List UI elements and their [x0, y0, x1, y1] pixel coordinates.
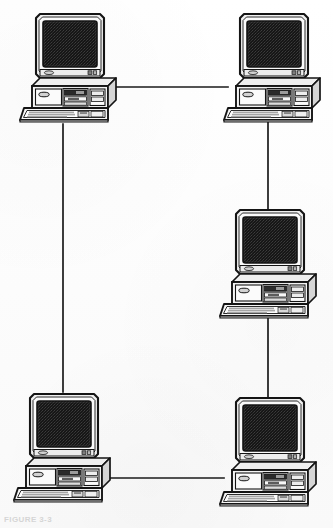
network-topology-diagram: [0, 0, 333, 528]
node-pc-top-left: [20, 14, 116, 122]
node-pc-top-right: [224, 14, 320, 122]
figure-caption-strip: FIGURE 3-3: [0, 514, 333, 528]
figure-caption: FIGURE 3-3: [4, 515, 52, 524]
node-pc-middle-right: [220, 210, 316, 318]
node-pc-bottom-right: [220, 398, 316, 506]
node-pc-bottom-left: [14, 394, 110, 502]
figure-page: FIGURE 3-3: [0, 0, 333, 528]
